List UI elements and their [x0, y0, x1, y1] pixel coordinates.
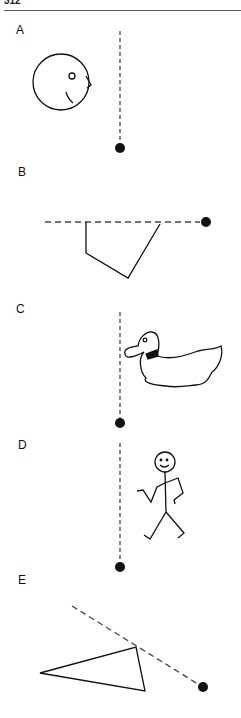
duck-outline: [125, 332, 222, 387]
plumb-line-e: [72, 606, 198, 684]
figure-canvas: [0, 0, 241, 718]
pivot-dot-d: [115, 562, 125, 572]
panel-a: [33, 31, 125, 153]
stick-leg-left: [144, 512, 166, 539]
stick-leg-right: [166, 512, 184, 538]
panel-b: [45, 217, 211, 278]
pivot-dot-b: [201, 217, 211, 227]
duck-eye-icon: [143, 338, 147, 342]
duck-neck-band: [146, 350, 158, 359]
open-shape: [86, 222, 160, 278]
stick-head: [155, 452, 175, 472]
pivot-dot-e: [198, 682, 208, 692]
triangle: [40, 647, 145, 691]
mouth: [66, 92, 73, 103]
eye-icon: [69, 73, 75, 79]
panel-c: [115, 312, 222, 428]
stick-body: [165, 472, 166, 512]
pivot-dot-a: [115, 143, 125, 153]
face-circle: [33, 54, 89, 110]
stick-arm-right: [165, 478, 183, 504]
stick-arm-left: [137, 483, 165, 502]
pivot-dot-c: [115, 418, 125, 428]
panel-d: [115, 443, 184, 572]
panel-e: [40, 606, 208, 692]
